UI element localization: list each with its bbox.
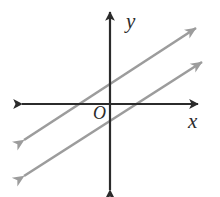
x-axis-label: x bbox=[187, 109, 198, 133]
parallel-lines-group bbox=[24, 28, 202, 176]
coordinate-plane-figure: y x O bbox=[0, 0, 220, 197]
axes-group bbox=[22, 12, 198, 190]
y-axis-label: y bbox=[124, 9, 136, 33]
origin-label: O bbox=[93, 103, 106, 123]
coordinate-plane-svg: y x O bbox=[0, 0, 220, 197]
line-2 bbox=[24, 62, 202, 176]
